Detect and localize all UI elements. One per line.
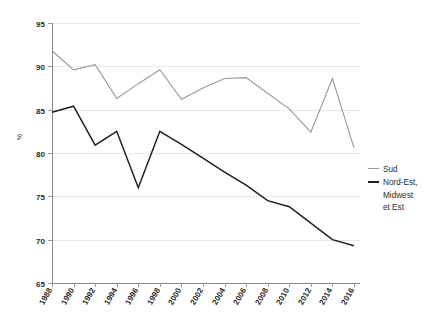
y-axis-title: % <box>16 134 23 140</box>
xtick-label-2012: 2012 <box>297 286 314 306</box>
ytick-label-95: 95 <box>36 20 45 29</box>
xtick-label-2006: 2006 <box>232 286 249 306</box>
legend-item-sud[interactable]: Sud <box>368 164 444 176</box>
series-line-sud <box>52 51 354 148</box>
legend-label-nord-est-midwest-et-est: Nord-Est, Midwest et Est <box>383 177 444 214</box>
legend-label-sud: Sud <box>383 164 444 176</box>
xtick-label-2016: 2016 <box>340 286 357 306</box>
xtick-label-2004: 2004 <box>211 286 228 306</box>
xtick-label-1990: 1990 <box>60 286 77 306</box>
xtick-label-2008: 2008 <box>254 286 271 306</box>
ytick-label-70: 70 <box>36 237 45 246</box>
legend-swatch-nord-est-midwest-et-est <box>368 177 379 187</box>
xtick-label-1996: 1996 <box>124 286 141 306</box>
ytick-label-75: 75 <box>36 193 45 202</box>
line-chart: 6570758085909519881990199219941996199820… <box>0 0 444 323</box>
xtick-label-2014: 2014 <box>318 286 335 306</box>
xtick-label-2010: 2010 <box>275 286 292 306</box>
ytick-label-80: 80 <box>36 150 45 159</box>
ytick-label-85: 85 <box>36 107 45 116</box>
legend-item-nord-est-midwest-et-est[interactable]: Nord-Est, Midwest et Est <box>368 177 444 214</box>
xtick-label-2002: 2002 <box>189 286 206 306</box>
xtick-label-1994: 1994 <box>103 286 120 306</box>
xtick-label-2000: 2000 <box>167 286 184 306</box>
chart-plot-area: 6570758085909519881990199219941996199820… <box>0 0 444 323</box>
xtick-label-1998: 1998 <box>146 286 163 306</box>
legend-swatch-sud <box>368 164 379 174</box>
ytick-label-65: 65 <box>36 280 45 289</box>
series-line-nord-est-midwest-et-est <box>52 106 354 246</box>
xtick-label-1988: 1988 <box>38 286 55 306</box>
ytick-label-90: 90 <box>36 63 45 72</box>
chart-legend: Sud Nord-Est, Midwest et Est <box>368 164 444 216</box>
xtick-label-1992: 1992 <box>81 286 98 306</box>
